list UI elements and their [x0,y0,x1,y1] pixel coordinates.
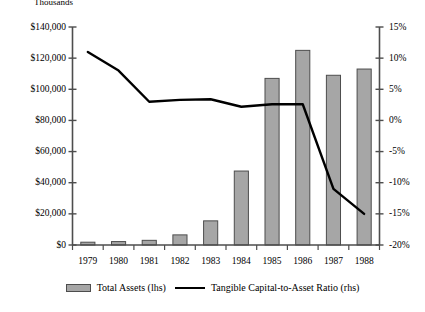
left-axis-tick-2: $40,000 [35,177,66,187]
legend-line-swatch-icon [175,287,205,289]
right-axis-tick-3: -5% [389,146,405,156]
right-axis-tick-1: -15% [389,208,410,218]
left-axis-tick-1: $20,000 [35,208,66,218]
line-series-capital-ratio [88,52,364,214]
right-axis-tick-7: 15% [389,22,406,32]
x-axis-tick-1986: 1986 [286,256,320,266]
right-axis-tick-0: -20% [389,240,410,250]
x-axis-tick-1980: 1980 [102,256,136,266]
x-axis-tick-1981: 1981 [132,256,166,266]
legend-bar-swatch-icon [66,284,91,292]
x-axis-tick-1983: 1983 [194,256,228,266]
left-axis-tick-4: $80,000 [35,115,66,125]
left-axis-tick-6: $120,000 [30,53,66,63]
bar-1988 [357,69,371,245]
x-axis-tick-1987: 1987 [316,256,350,266]
right-axis-tick-4: 0% [389,115,402,125]
x-axis-tick-1985: 1985 [255,256,289,266]
right-axis-tick-6: 10% [389,53,406,63]
bar-1987 [326,75,340,245]
legend-label-total-assets: Total Assets (lhs) [97,282,166,293]
left-axis-tick-7: $140,000 [30,22,66,32]
right-axis-tick-5: 5% [389,84,402,94]
bar-1982 [173,235,187,245]
bar-1983 [204,221,218,245]
left-axis-tick-3: $60,000 [35,146,66,156]
x-axis-tick-1984: 1984 [224,256,258,266]
legend-item-capital-ratio: Tangible Capital-to-Asset Ratio (rhs) [175,282,359,293]
bar-1984 [234,171,248,245]
chart-legend: Total Assets (lhs) Tangible Capital-to-A… [0,282,425,293]
left-axis-tick-0: $0 [57,240,67,250]
x-axis-tick-1988: 1988 [347,256,381,266]
legend-item-total-assets: Total Assets (lhs) [66,282,166,293]
chart-container: Thousands $0$20,000$40,000$60,000$80,000… [0,0,425,312]
bar-1986 [296,50,310,245]
legend-label-capital-ratio: Tangible Capital-to-Asset Ratio (rhs) [211,282,359,293]
right-axis-tick-2: -10% [389,177,410,187]
x-axis-tick-1979: 1979 [71,256,105,266]
x-axis-tick-1982: 1982 [163,256,197,266]
left-axis-tick-5: $100,000 [30,84,66,94]
